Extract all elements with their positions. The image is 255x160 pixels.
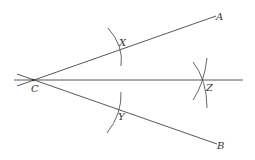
ray-ca <box>17 16 216 86</box>
label-b: B <box>216 140 224 151</box>
label-c: C <box>31 83 39 94</box>
point-c <box>32 79 35 82</box>
label-a: A <box>215 11 223 22</box>
label-z: Z <box>205 82 214 93</box>
label-x: X <box>118 37 127 48</box>
label-y: Y <box>118 111 126 122</box>
ray-cb <box>17 74 217 144</box>
bisector-diagram: A B C X Y Z <box>0 0 255 160</box>
